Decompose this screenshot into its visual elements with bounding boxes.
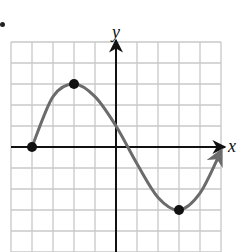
function-graph: y x xyxy=(0,0,244,252)
y-axis-label: y xyxy=(110,22,120,42)
point-marker xyxy=(174,205,184,215)
x-axis-label: x xyxy=(227,136,236,156)
point-marker xyxy=(27,142,37,152)
point-marker xyxy=(69,79,79,89)
axes xyxy=(11,40,225,252)
